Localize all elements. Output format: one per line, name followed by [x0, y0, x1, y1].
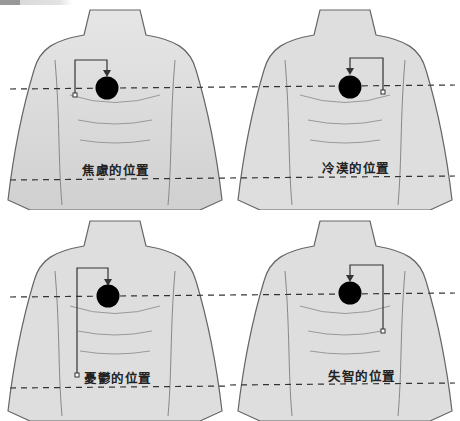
torso-figure [0, 211, 230, 421]
panel-dementia: 失智的位置 [230, 211, 460, 421]
origin-marker-icon [381, 329, 385, 333]
emotion-dot-icon [339, 76, 362, 99]
panel-label: 憂鬱的位置 [84, 368, 152, 387]
panel-anxiety: 焦慮的位置 [0, 0, 230, 210]
panel-depression: 憂鬱的位置 [0, 211, 230, 421]
emotion-dot-icon [96, 77, 119, 100]
panel-apathy: 冷漠的位置 [230, 0, 460, 210]
panel-label: 冷漠的位置 [322, 158, 390, 177]
origin-marker-icon [73, 93, 77, 97]
emotion-dot-icon [97, 285, 120, 308]
origin-marker-icon [381, 90, 385, 94]
torso-figure [230, 0, 460, 210]
torso-figure [230, 211, 460, 421]
origin-marker-icon [75, 373, 79, 377]
panel-label: 焦慮的位置 [82, 160, 150, 179]
emotion-dot-icon [339, 282, 362, 305]
panel-label: 失智的位置 [328, 366, 396, 385]
